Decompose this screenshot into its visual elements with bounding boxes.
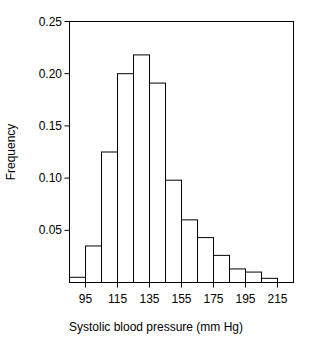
x-tick-label: 135 — [139, 292, 159, 306]
x-tick-label: 155 — [171, 292, 191, 306]
histogram-bar — [246, 272, 262, 282]
histogram-bar — [134, 55, 150, 283]
histogram-bar — [262, 278, 278, 282]
histogram-figure: Frequency 0.050.100.150.200.25 951151351… — [0, 0, 312, 343]
histogram-bar — [102, 152, 118, 283]
x-tick-label: 195 — [235, 292, 255, 306]
histogram-bar — [230, 269, 246, 283]
histogram-bar — [214, 255, 230, 282]
histogram-bar — [86, 246, 102, 283]
x-tick-label: 115 — [108, 292, 127, 306]
histogram-bar — [182, 220, 198, 283]
x-tick-label: 175 — [203, 292, 223, 306]
histogram-bar — [118, 74, 134, 283]
histogram-bar — [150, 83, 166, 282]
x-axis-title: Systolic blood pressure (mm Hg) — [0, 320, 312, 334]
histogram-bar — [70, 277, 86, 282]
x-tick-label: 215 — [267, 292, 287, 306]
x-tick-label: 95 — [79, 292, 92, 306]
histogram-bar — [166, 180, 182, 282]
histogram-bar — [198, 238, 214, 283]
